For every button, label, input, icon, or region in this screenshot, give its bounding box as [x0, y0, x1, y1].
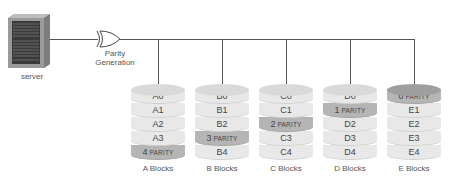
parity-suffix: PARITY — [277, 121, 301, 128]
disk-top — [323, 84, 377, 96]
data-block: D4 — [323, 145, 377, 160]
block-label: B2 — [216, 119, 227, 129]
parity-suffix: PARITY — [341, 107, 365, 114]
block-label: D3 — [344, 133, 356, 143]
block-label: C3 — [280, 133, 292, 143]
data-block: A1 — [131, 103, 185, 118]
gate-label-line2: Generation — [88, 58, 142, 67]
block-label: E4 — [408, 147, 419, 157]
disk-top — [387, 84, 441, 96]
xor-gate-icon — [96, 30, 122, 48]
disk-top — [131, 84, 185, 96]
drop-line-e — [414, 39, 415, 89]
disk-top — [195, 84, 249, 96]
stack-label: B Blocks — [185, 164, 259, 173]
data-block: B4 — [195, 145, 249, 160]
data-block: E4 — [387, 145, 441, 160]
server-to-gate-line — [50, 39, 98, 40]
block-label: D2 — [344, 119, 356, 129]
data-block: A2 — [131, 117, 185, 132]
parity-block: 2 PARITY — [259, 117, 313, 132]
stack-label: E Blocks — [377, 164, 451, 173]
block-label: C1 — [280, 105, 292, 115]
data-block: B1 — [195, 103, 249, 118]
block-label: E2 — [408, 119, 419, 129]
data-block: A3 — [131, 131, 185, 146]
block-label: D4 — [344, 147, 356, 157]
parity-block: 3 PARITY — [195, 131, 249, 146]
parity-generation-label: Parity Generation — [88, 49, 142, 67]
data-block: E1 — [387, 103, 441, 118]
drop-line-c — [286, 39, 287, 89]
stack-label: D Blocks — [313, 164, 387, 173]
block-label: C4 — [280, 147, 292, 157]
gate-label-line1: Parity — [88, 49, 142, 58]
parity-bus-line — [120, 39, 415, 40]
data-block: D3 — [323, 131, 377, 146]
data-block: E3 — [387, 131, 441, 146]
parity-suffix: PARITY — [213, 135, 237, 142]
block-label: E3 — [408, 133, 419, 143]
block-label: B1 — [216, 105, 227, 115]
drop-line-b — [222, 39, 223, 89]
data-block: C1 — [259, 103, 313, 118]
drop-line-a — [158, 39, 159, 89]
stack-label: A Blocks — [121, 164, 195, 173]
block-label: E1 — [408, 105, 419, 115]
disk-top — [259, 84, 313, 96]
parity-block: 1 PARITY — [323, 103, 377, 118]
block-label: A2 — [152, 119, 163, 129]
server-label: server — [14, 72, 50, 81]
block-label: A3 — [152, 133, 163, 143]
data-block: C4 — [259, 145, 313, 160]
data-block: B2 — [195, 117, 249, 132]
data-block: E2 — [387, 117, 441, 132]
parity-block: 4 PARITY — [131, 145, 185, 160]
data-block: D2 — [323, 117, 377, 132]
parity-suffix: PARITY — [149, 149, 173, 156]
data-block: C3 — [259, 131, 313, 146]
drop-line-d — [350, 39, 351, 89]
block-label: B4 — [216, 147, 227, 157]
server-rack-icon — [8, 14, 50, 68]
block-label: A1 — [152, 105, 163, 115]
stack-label: C Blocks — [249, 164, 323, 173]
